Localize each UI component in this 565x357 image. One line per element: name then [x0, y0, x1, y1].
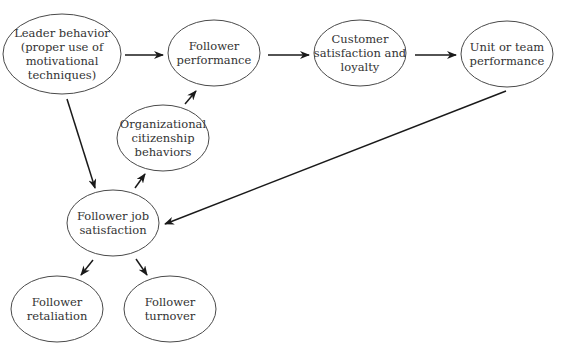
node-label-line: citizenship [131, 131, 194, 145]
node-label-line: Follower [189, 39, 240, 53]
node-jobsat: Follower jobsatisfaction [67, 190, 159, 256]
node-label-line: Unit or team [470, 40, 544, 54]
nodes-layer: Leader behavior(proper use ofmotivationa… [3, 14, 553, 342]
node-label-line: Leader behavior [14, 26, 110, 40]
node-label-line: retaliation [27, 309, 88, 323]
node-label-line: satisfaction and [314, 46, 407, 60]
node-label-line: techniques) [28, 68, 96, 82]
node-turnover: Followerturnover [124, 276, 216, 342]
node-label-line: (proper use of [21, 40, 104, 54]
node-leader: Leader behavior(proper use ofmotivationa… [3, 14, 121, 94]
arrow-jobsat-to-retaliation [81, 260, 93, 275]
node-label-line: Follower job [77, 209, 149, 223]
node-unit: Unit or teamperformance [461, 21, 553, 87]
node-customer: Customersatisfaction andloyalty [314, 20, 407, 86]
arrow-jobsat-to-turnover [136, 259, 147, 275]
node-retaliation: Followerretaliation [11, 276, 103, 342]
node-label-line: Organizational [120, 117, 207, 131]
node-label-line: turnover [145, 309, 196, 323]
node-ocb: Organizationalcitizenshipbehaviors [117, 105, 209, 171]
node-performance: Followerperformance [168, 20, 260, 86]
node-label-line: performance [470, 54, 545, 68]
node-label-line: Follower [32, 295, 83, 309]
node-label-line: motivational [26, 54, 99, 68]
arrow-ocb-to-performance [185, 91, 196, 104]
node-label-line: behaviors [135, 145, 192, 159]
arrow-leader-to-jobsat [67, 99, 95, 188]
node-label-line: satisfaction [79, 223, 147, 237]
flow-diagram: Leader behavior(proper use ofmotivationa… [0, 0, 565, 357]
node-label-line: loyalty [341, 60, 380, 74]
node-label-line: performance [177, 53, 252, 67]
node-label-line: Follower [145, 295, 196, 309]
arrow-jobsat-to-ocb [135, 174, 145, 188]
arrow-unit-to-jobsat [165, 91, 506, 224]
node-label-line: Customer [332, 32, 389, 46]
